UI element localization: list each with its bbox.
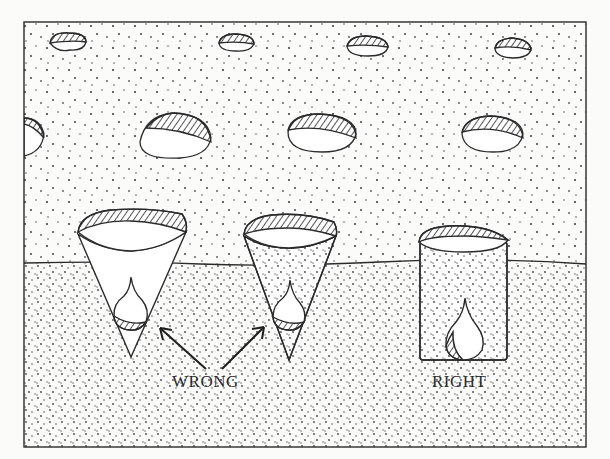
wrong-label: WRONG (172, 372, 239, 392)
bulb-planting-illustration (0, 0, 610, 459)
soil-layers (24, 22, 586, 447)
right-hole-cylinder (419, 226, 508, 360)
right-label: RIGHT (432, 372, 486, 392)
